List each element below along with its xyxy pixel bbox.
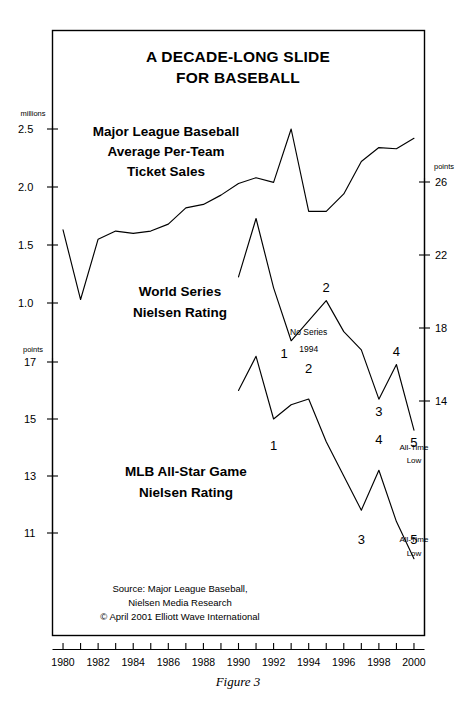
wave-label-4: 4 (375, 432, 382, 447)
wave-label-3: 3 (358, 532, 365, 547)
chart-title-line-2: FOR BASEBALL (176, 69, 300, 86)
ticket-sales-label-line-3: Ticket Sales (127, 164, 205, 179)
wave-label-3: 3 (375, 404, 382, 419)
series-annotation: All-Time (399, 443, 429, 452)
x-axis-tick-label: 1984 (122, 656, 146, 668)
axis-right-tick-3: 14 (435, 395, 447, 407)
x-axis-tick-label: 1986 (157, 656, 181, 668)
source-line-2: Nielsen Media Research (128, 597, 232, 608)
x-axis-tick-label: 1982 (86, 656, 110, 668)
all-star-label-line-1: MLB All-Star Game (125, 464, 247, 479)
x-axis-tick-label: 1998 (367, 656, 391, 668)
axis-left-top-tick-3: 1.0 (18, 297, 33, 309)
wave-label-1: 1 (281, 346, 288, 361)
wave-label-4: 4 (393, 344, 400, 359)
series-annotation: No Series (290, 327, 327, 337)
world-series-label-line-2: Nielsen Rating (133, 305, 227, 320)
figure-caption: Figure 3 (215, 674, 261, 689)
series-annotation: 1994 (299, 344, 318, 354)
x-axis-tick-label: 1990 (227, 656, 251, 668)
x-axis-tick-label: 1988 (192, 656, 216, 668)
axis-left-bottom-tick-3: 11 (24, 527, 35, 539)
world-series-label-line-1: World Series (139, 284, 221, 299)
ticket-sales-label-line-1: Major League Baseball (93, 124, 239, 139)
axis-left-top-tick-2: 1.5 (18, 239, 33, 251)
axis-right-tick-1: 22 (435, 249, 447, 261)
figure-container: A DECADE-LONG SLIDE FOR BASEBALL million… (0, 0, 475, 707)
series-annotation: Low (407, 456, 422, 465)
axis-right-tick-0: 26 (435, 176, 447, 188)
axis-left-bottom-tick-2: 13 (24, 470, 36, 482)
x-axis-tick-labels: 1980198219841986198819901992199419961998… (51, 656, 425, 668)
all-star-label-line-2: Nielsen Rating (139, 485, 233, 500)
chart-title-line-1: A DECADE-LONG SLIDE (146, 48, 330, 65)
x-axis-tick-label: 1980 (51, 656, 75, 668)
wave-label-2: 2 (305, 361, 312, 376)
ticket-sales-label-line-2: Average Per-Team (107, 144, 224, 159)
x-axis-tick-label: 2000 (402, 656, 426, 668)
series-annotation: Low (407, 549, 422, 558)
x-axis-tick-label: 1994 (297, 656, 321, 668)
wave-label-2: 2 (323, 280, 330, 295)
source-line-1: Source: Major League Baseball, (112, 583, 247, 594)
axis-left-bottom-tick-0: 17 (24, 356, 36, 368)
axis-left-bottom-unit: points (23, 345, 43, 354)
axis-right-tick-2: 18 (435, 322, 447, 334)
wave-label-1: 1 (270, 438, 277, 453)
axis-left-top-unit: millions (20, 109, 45, 118)
x-axis-tick-label: 1996 (332, 656, 356, 668)
source-line-3: © April 2001 Elliott Wave International (100, 611, 259, 622)
axis-right-unit: points (434, 162, 454, 171)
series-annotation: All-Time (399, 535, 429, 544)
axis-left-bottom-tick-1: 15 (24, 413, 36, 425)
axis-left-top-tick-0: 2.5 (18, 123, 33, 135)
baseball-decline-chart: A DECADE-LONG SLIDE FOR BASEBALL million… (0, 0, 475, 707)
x-axis-tick-label: 1992 (262, 656, 286, 668)
axis-left-top-tick-1: 2.0 (18, 181, 33, 193)
chart-background (0, 0, 475, 707)
x-axis-ticks (63, 643, 414, 650)
